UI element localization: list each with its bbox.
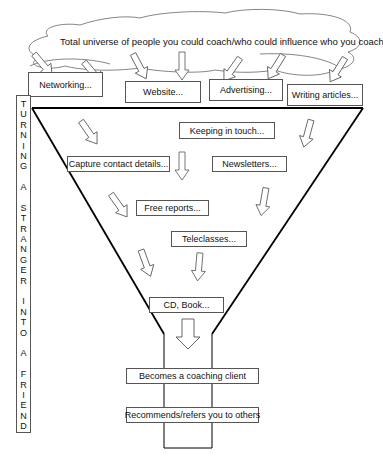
- side-letter: D: [20, 421, 27, 431]
- step-becomes-client-label: Becomes a coaching client: [139, 371, 246, 381]
- side-letter: N: [20, 244, 27, 254]
- side-letter: A: [20, 234, 26, 244]
- funnel-diagram-graphics: [0, 0, 383, 460]
- step-keeping-in-touch: Keeping in touch...: [179, 122, 275, 139]
- channel-writing-articles-label: Writing articles...: [292, 90, 358, 100]
- step-cd-book-label: CD, Book...: [163, 300, 209, 310]
- channel-networking-label: Networking...: [39, 80, 92, 90]
- side-letter: A: [20, 348, 26, 358]
- side-letter: N: [20, 130, 27, 140]
- side-letter: T: [21, 213, 27, 223]
- side-letter: T: [21, 317, 27, 327]
- side-letter: R: [20, 224, 27, 234]
- step-free-reports-label: Free reports...: [144, 203, 201, 213]
- side-letter: R: [20, 276, 27, 286]
- side-label-turning-stranger-into-friend: T U R N I N G A S T R A N G E R I N T O …: [16, 95, 31, 433]
- side-letter: I: [22, 390, 25, 400]
- step-keeping-in-touch-label: Keeping in touch...: [190, 126, 265, 136]
- side-letter: R: [20, 380, 27, 390]
- step-becomes-client: Becomes a coaching client: [126, 368, 259, 384]
- side-letter: N: [20, 151, 27, 161]
- side-letter: T: [21, 99, 27, 109]
- side-letter: G: [20, 255, 27, 265]
- side-letter: N: [20, 411, 27, 421]
- channel-writing-articles: Writing articles...: [287, 84, 363, 106]
- step-recommends-label: Recommends/refers you to others: [125, 410, 261, 420]
- channel-advertising: Advertising...: [209, 79, 283, 101]
- channel-advertising-label: Advertising...: [220, 85, 272, 95]
- channel-networking: Networking...: [28, 72, 103, 97]
- side-letter: I: [22, 141, 25, 151]
- side-letter: E: [20, 265, 26, 275]
- side-letter: A: [20, 182, 26, 192]
- step-recommends: Recommends/refers you to others: [126, 407, 259, 423]
- side-letter: F: [21, 369, 27, 379]
- side-letter: I: [22, 296, 25, 306]
- step-capture-contact-label: Capture contact details...: [69, 159, 169, 169]
- step-newsletters-label: Newsletters...: [222, 159, 277, 169]
- step-cd-book: CD, Book...: [149, 297, 224, 313]
- side-letter: E: [20, 400, 26, 410]
- step-teleclasses-label: Teleclasses...: [182, 234, 236, 244]
- side-letter: S: [20, 203, 26, 213]
- side-letter: G: [20, 161, 27, 171]
- side-letter: O: [20, 328, 27, 338]
- step-newsletters: Newsletters...: [212, 156, 287, 172]
- side-letter: R: [20, 120, 27, 130]
- step-free-reports: Free reports...: [136, 200, 209, 216]
- step-teleclasses: Teleclasses...: [171, 231, 247, 247]
- step-capture-contact: Capture contact details...: [67, 156, 170, 172]
- channel-website: Website...: [125, 81, 201, 103]
- side-letter: N: [20, 307, 27, 317]
- side-letter: U: [20, 109, 27, 119]
- channel-website-label: Website...: [143, 87, 183, 97]
- cloud-label: Total universe of people you could coach…: [60, 36, 350, 47]
